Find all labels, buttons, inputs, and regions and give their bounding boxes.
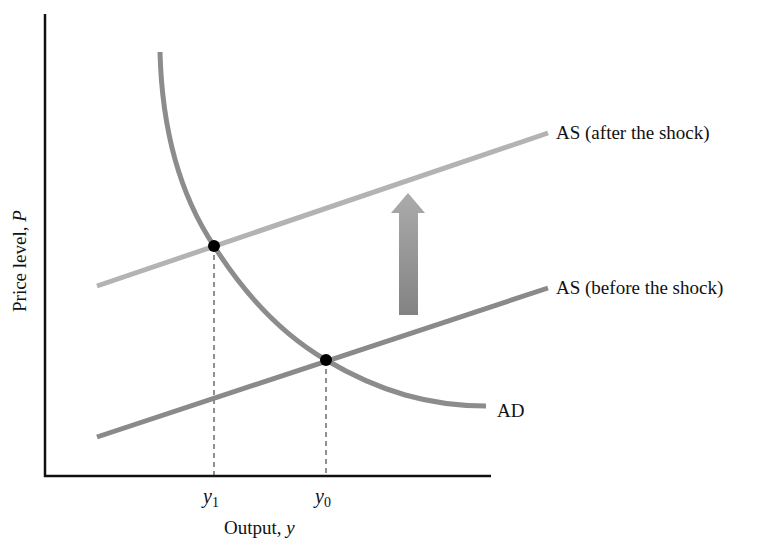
y-axis-title-var: P: [9, 210, 30, 223]
ad-curve: [160, 52, 486, 406]
tick-y1-sub: 1: [212, 495, 219, 510]
tick-y0-sub: 0: [324, 495, 331, 510]
tick-y1-base: y: [201, 485, 212, 508]
as-ad-diagram: AS (after the shock) AS (before the shoc…: [0, 0, 767, 551]
shift-up-arrow-icon: [391, 193, 425, 315]
x-axis-title-var: y: [284, 517, 295, 538]
tick-y0-base: y: [313, 485, 324, 508]
tick-y1: y1: [201, 485, 219, 510]
y-axis-title: Price level, P: [9, 210, 30, 312]
as-after-shock-line: [97, 133, 548, 286]
y-axis-title-prefix: Price level,: [9, 222, 30, 312]
equilibrium-point-initial: [320, 354, 332, 366]
as-before-label: AS (before the shock): [556, 277, 723, 299]
tick-y0: y0: [313, 485, 331, 510]
as-after-label: AS (after the shock): [556, 122, 710, 144]
x-axis-title-prefix: Output,: [224, 517, 286, 538]
equilibrium-point-new: [208, 240, 220, 252]
ad-label: AD: [497, 400, 524, 421]
x-axis-title: Output, y: [224, 517, 295, 538]
